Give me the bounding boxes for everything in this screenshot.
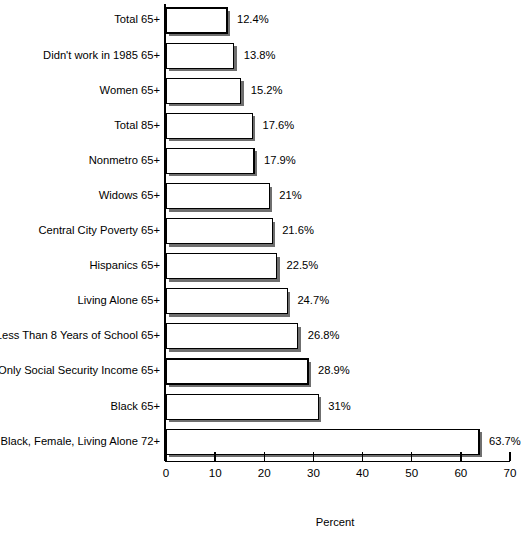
x-axis-title: Percent <box>316 516 355 528</box>
bar-outline <box>166 289 287 314</box>
bar-group <box>166 219 275 247</box>
value-label: 21% <box>279 189 301 201</box>
bar-outline <box>166 148 254 173</box>
value-label: 21.6% <box>282 224 314 236</box>
category-label: Didn't work in 1985 65+ <box>43 49 160 61</box>
bar-outline <box>166 78 241 103</box>
x-axis-tick-label: 60 <box>454 466 467 479</box>
category-label: Living Alone 65+ <box>78 294 160 306</box>
category-label: Total 85+ <box>114 119 160 131</box>
value-label: 12.4% <box>237 13 269 25</box>
bar-outline <box>166 359 308 384</box>
category-label: Black 65+ <box>111 400 160 412</box>
category-label: Only Social Security Income 65+ <box>0 364 160 376</box>
x-axis-tick-label: 70 <box>504 466 517 479</box>
bar-group <box>166 429 482 457</box>
bar-outline <box>166 8 227 33</box>
value-label: 63.7% <box>489 435 521 447</box>
category-label: Total 65+ <box>114 13 160 25</box>
category-label: Less Than 8 Years of School 65+ <box>0 329 160 341</box>
bar-outline <box>166 429 479 454</box>
bar-group <box>166 359 311 387</box>
category-labels-group: Total 65+Didn't work in 1985 65+Women 65… <box>0 13 160 446</box>
bar-outline <box>166 254 277 279</box>
value-label: 13.8% <box>244 49 276 61</box>
category-label: Black, Female, Living Alone 72+ <box>0 435 160 447</box>
x-axis-tick-label: 30 <box>307 466 320 479</box>
bar-outline <box>166 113 252 138</box>
value-label: 24.7% <box>297 294 329 306</box>
bar-group <box>166 184 272 212</box>
bar-group <box>166 289 290 317</box>
bar-outline <box>166 184 269 209</box>
x-axis-tick-label: 50 <box>405 466 418 479</box>
bar-group <box>166 254 280 282</box>
bar-group <box>166 113 255 141</box>
bar-group <box>166 8 230 36</box>
value-label: 26.8% <box>308 329 340 341</box>
bars-group <box>166 8 482 457</box>
bar-outline <box>166 324 298 349</box>
value-label: 17.6% <box>262 119 294 131</box>
category-label: Widows 65+ <box>99 189 160 201</box>
bar-chart: Total 65+Didn't work in 1985 65+Women 65… <box>0 0 524 540</box>
category-label: Nonmetro 65+ <box>89 154 160 166</box>
category-label: Hispanics 65+ <box>89 259 160 271</box>
bar-outline <box>166 219 272 244</box>
bar-group <box>166 324 301 352</box>
category-label: Women 65+ <box>100 84 160 96</box>
bar-outline <box>166 43 234 68</box>
x-axis-tick-label: 20 <box>258 466 271 479</box>
value-label: 15.2% <box>251 84 283 96</box>
category-label: Central City Poverty 65+ <box>38 224 160 236</box>
value-label: 31% <box>328 400 350 412</box>
bar-outline <box>166 394 318 419</box>
bar-group <box>166 43 237 71</box>
x-axis-tick-label: 0 <box>163 466 169 479</box>
bar-group <box>166 394 321 422</box>
x-axis-tick-label: 10 <box>209 466 222 479</box>
bar-group <box>166 148 257 176</box>
value-label: 17.9% <box>264 154 296 166</box>
chart-canvas: Total 65+Didn't work in 1985 65+Women 65… <box>0 0 524 540</box>
x-axis-tick-label: 40 <box>356 466 369 479</box>
value-label: 22.5% <box>287 259 319 271</box>
value-label: 28.9% <box>318 364 350 376</box>
bar-group <box>166 78 244 106</box>
